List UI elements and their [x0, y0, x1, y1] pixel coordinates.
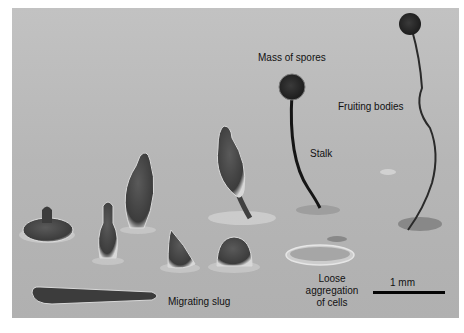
label-loose-aggregation: Loose aggregation of cells: [302, 273, 362, 309]
label-loose-line-2: aggregation: [302, 285, 362, 297]
micrograph-canvas: [12, 8, 459, 318]
scale-bar-label: 1 mm: [390, 277, 415, 288]
label-mass-of-spores: Mass of spores: [258, 52, 326, 64]
label-stalk: Stalk: [310, 148, 332, 160]
scale-bar: [373, 291, 445, 294]
label-migrating-slug: Migrating slug: [168, 296, 230, 308]
label-loose-line-1: Loose: [302, 273, 362, 285]
label-loose-line-3: of cells: [302, 297, 362, 309]
micrograph: [12, 8, 459, 318]
label-fruiting-bodies: Fruiting bodies: [338, 101, 404, 113]
cropped-caption-fragment: [12, 0, 142, 4]
